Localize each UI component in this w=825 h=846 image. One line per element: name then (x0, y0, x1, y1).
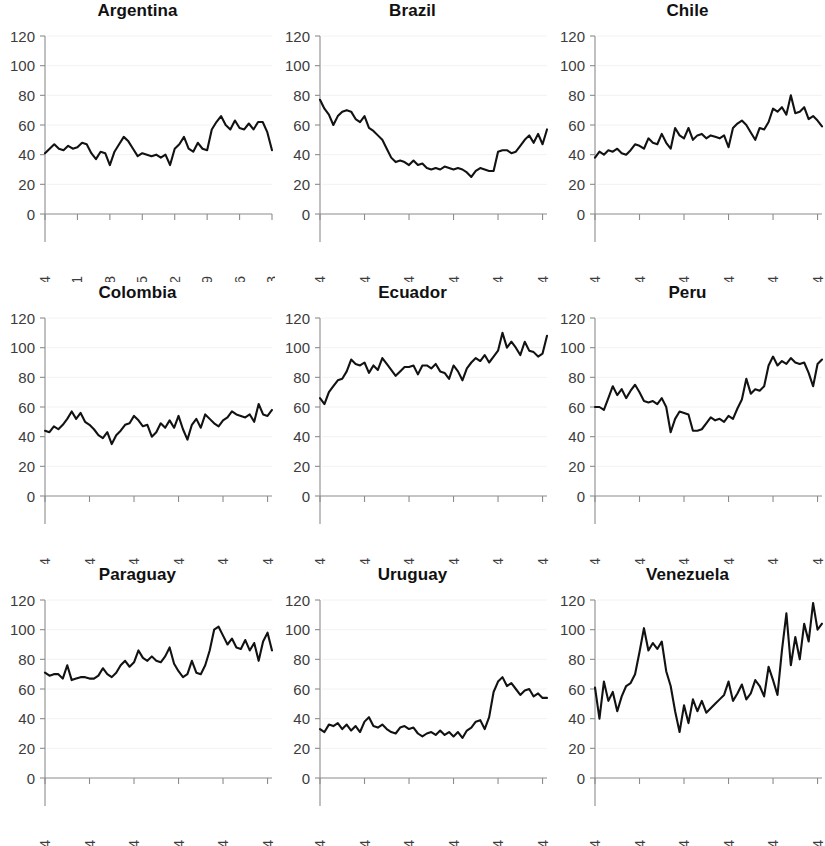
y-tick-label: 100 (10, 57, 35, 74)
x-tick-label: 1974 (82, 840, 98, 846)
panel-row-3: Paraguay 0204060801001201964197419841994… (0, 564, 825, 846)
chart-svg: 020406080100120196419741984199420042014 (0, 592, 275, 846)
chart-svg: 020406080100120196419741984199420042014 (550, 592, 825, 846)
y-tick-label: 100 (560, 57, 585, 74)
panel-peru: Peru 02040608010012019641974198419942004… (550, 282, 825, 564)
panel-title-chile: Chile (550, 1, 825, 21)
y-tick-label: 60 (568, 681, 585, 698)
x-tick-label: 2014 (810, 840, 825, 846)
y-tick-label: 20 (568, 176, 585, 193)
y-tick-label: 60 (18, 399, 35, 416)
x-tick-label: 1974 (357, 840, 373, 846)
y-tick-label: 40 (293, 146, 310, 163)
y-tick-label: 80 (293, 651, 310, 668)
series-line (45, 627, 272, 680)
y-tick-label: 20 (293, 458, 310, 475)
chart-svg: 020406080100120196419741984199420042014 (550, 28, 825, 282)
x-tick-label: 2004 (215, 840, 231, 846)
y-tick-label: 20 (293, 176, 310, 193)
y-tick-label: 20 (568, 740, 585, 757)
y-tick-label: 40 (18, 146, 35, 163)
panel-paraguay: Paraguay 0204060801001201964197419841994… (0, 564, 275, 846)
y-tick-label: 60 (18, 681, 35, 698)
plot-brazil: 020406080100120196419741984199420042014 (275, 28, 550, 282)
y-tick-label: 120 (285, 28, 310, 45)
y-tick-label: 120 (285, 592, 310, 609)
series-line (320, 677, 547, 738)
y-tick-label: 80 (18, 369, 35, 386)
x-tick-label: 1964 (37, 840, 53, 846)
y-tick-label: 60 (18, 117, 35, 134)
y-tick-label: 100 (285, 339, 310, 356)
y-tick-label: 40 (293, 428, 310, 445)
series-line (595, 357, 822, 433)
y-tick-label: 80 (293, 87, 310, 104)
y-tick-label: 40 (568, 710, 585, 727)
panel-brazil: Brazil 020406080100120196419741984199420… (275, 0, 550, 282)
plot-paraguay: 020406080100120196419741984199420042014 (0, 592, 275, 846)
y-tick-label: 0 (577, 206, 585, 223)
y-tick-label: 40 (18, 710, 35, 727)
y-tick-label: 100 (560, 621, 585, 638)
series-line (320, 100, 547, 177)
y-tick-label: 20 (568, 458, 585, 475)
y-tick-label: 20 (18, 458, 35, 475)
y-tick-label: 100 (10, 621, 35, 638)
y-tick-label: 120 (560, 592, 585, 609)
y-tick-label: 120 (10, 310, 35, 327)
plot-chile: 020406080100120196419741984199420042014 (550, 28, 825, 282)
panel-title-brazil: Brazil (275, 1, 550, 21)
plot-uruguay: 020406080100120196419741984199420042014 (275, 592, 550, 846)
y-tick-label: 80 (18, 87, 35, 104)
panel-title-paraguay: Paraguay (0, 565, 275, 585)
y-tick-label: 80 (568, 87, 585, 104)
y-tick-label: 40 (568, 428, 585, 445)
x-tick-label: 1984 (401, 840, 417, 846)
y-tick-label: 120 (285, 310, 310, 327)
y-tick-label: 120 (10, 592, 35, 609)
y-tick-label: 120 (560, 28, 585, 45)
y-tick-label: 60 (568, 117, 585, 134)
x-tick-label: 1984 (126, 840, 142, 846)
y-tick-label: 120 (560, 310, 585, 327)
series-line (595, 603, 822, 732)
x-tick-label: 2014 (260, 840, 275, 846)
y-tick-label: 20 (18, 176, 35, 193)
panel-chile: Chile 0204060801001201964197419841994200… (550, 0, 825, 282)
y-tick-label: 60 (293, 399, 310, 416)
y-tick-label: 100 (10, 339, 35, 356)
plot-colombia: 020406080100120196419741984199420042014 (0, 310, 275, 564)
series-line (320, 333, 547, 404)
chart-svg: 0204060801001201964197119781985199219992… (0, 28, 275, 282)
panel-title-ecuador: Ecuador (275, 283, 550, 303)
panel-title-peru: Peru (550, 283, 825, 303)
y-tick-label: 100 (285, 621, 310, 638)
plot-peru: 020406080100120196419741984199420042014 (550, 310, 825, 564)
panel-ecuador: Ecuador 02040608010012019641974198419942… (275, 282, 550, 564)
y-tick-label: 40 (18, 428, 35, 445)
chart-svg: 020406080100120196419741984199420042014 (0, 310, 275, 564)
y-tick-label: 100 (285, 57, 310, 74)
y-tick-label: 0 (27, 206, 35, 223)
x-tick-label: 2004 (765, 840, 781, 846)
chart-svg: 020406080100120196419741984199420042014 (275, 28, 550, 282)
y-tick-label: 20 (293, 740, 310, 757)
y-tick-label: 40 (293, 710, 310, 727)
panel-title-uruguay: Uruguay (275, 565, 550, 585)
y-tick-label: 60 (293, 681, 310, 698)
panel-title-colombia: Colombia (0, 283, 275, 303)
chart-svg: 020406080100120196419741984199420042014 (550, 310, 825, 564)
y-tick-label: 0 (577, 770, 585, 787)
y-tick-label: 0 (302, 206, 310, 223)
y-tick-label: 80 (568, 651, 585, 668)
panel-title-venezuela: Venezuela (550, 565, 825, 585)
series-line (45, 404, 272, 444)
panel-argentina: Argentina 020406080100120196419711978198… (0, 0, 275, 282)
x-tick-label: 1984 (676, 840, 692, 846)
panel-row-1: Argentina 020406080100120196419711978198… (0, 0, 825, 282)
chart-svg: 020406080100120196419741984199420042014 (275, 592, 550, 846)
x-tick-label: 1994 (721, 840, 737, 846)
x-tick-label: 1964 (312, 840, 328, 846)
series-line (595, 95, 822, 157)
y-tick-label: 80 (18, 651, 35, 668)
